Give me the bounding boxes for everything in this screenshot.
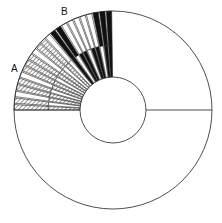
circular-diagram: A B xyxy=(0,0,222,223)
label-b: B xyxy=(61,7,68,17)
wedge-ring-diagram xyxy=(0,0,222,223)
inner-circle xyxy=(80,77,146,143)
label-a: A xyxy=(11,64,18,74)
